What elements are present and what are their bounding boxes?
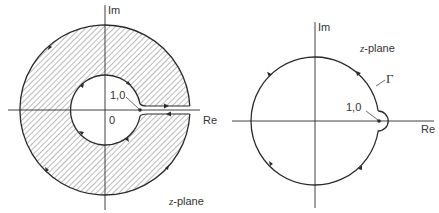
left-diagram: Im Re 0 1,0 z-plane	[8, 4, 217, 210]
plane-label-left: z-plane	[168, 195, 204, 207]
point-label-left: 1,0	[110, 89, 125, 101]
direction-arrows-right	[266, 70, 362, 170]
plane-label-right: z-plane	[359, 42, 395, 54]
point-leader-left	[126, 97, 139, 109]
im-label-right: Im	[318, 21, 330, 33]
re-label-left: Re	[203, 114, 217, 126]
right-diagram: Im Re 1,0 Γ z-plane	[232, 21, 435, 208]
point-label-right: 1,0	[346, 101, 361, 113]
im-label-left: Im	[108, 4, 120, 16]
point-leader-right	[366, 111, 378, 120]
gamma-leader	[376, 80, 385, 86]
gamma-label: Γ	[386, 71, 394, 86]
arrow-icon	[266, 70, 272, 76]
plane-rest-right: -plane	[364, 42, 395, 54]
plane-rest-left: -plane	[173, 195, 204, 207]
re-label-right: Re	[421, 123, 435, 135]
origin-label-left: 0	[109, 114, 115, 126]
contour-diagrams: Im Re 0 1,0 z-plane Im Re 1,0 Γ	[0, 0, 439, 213]
